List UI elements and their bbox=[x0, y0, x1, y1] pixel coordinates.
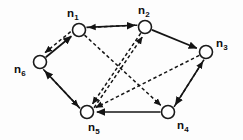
graph-node-n6 bbox=[34, 56, 47, 69]
node-label-n5: n5 bbox=[88, 122, 99, 134]
graph-edge-n6-to-n5 bbox=[43, 69, 78, 106]
node-label-n3: n3 bbox=[216, 38, 227, 50]
edge-layer bbox=[43, 25, 204, 112]
graph-node-n4 bbox=[162, 106, 175, 119]
node-layer bbox=[34, 21, 213, 119]
node-label-subscript-n4: 4 bbox=[184, 125, 188, 134]
graph-node-n3 bbox=[200, 46, 213, 59]
node-label-base-n6: n bbox=[14, 63, 21, 75]
node-label-subscript-n6: 6 bbox=[21, 69, 25, 78]
directed-graph-diagram: n1n2n3n4n5n6 bbox=[0, 0, 243, 140]
node-label-n6: n6 bbox=[14, 64, 25, 76]
graph-canvas bbox=[0, 0, 243, 140]
node-label-subscript-n2: 2 bbox=[145, 10, 149, 19]
node-label-base-n5: n bbox=[88, 121, 95, 133]
graph-edge-n5-to-n6 bbox=[45, 71, 80, 108]
node-label-n2: n2 bbox=[138, 5, 149, 17]
node-label-base-n2: n bbox=[138, 4, 145, 16]
node-label-n1: n1 bbox=[67, 8, 78, 20]
node-label-subscript-n1: 1 bbox=[74, 13, 78, 22]
graph-node-n2 bbox=[139, 21, 152, 34]
graph-node-n5 bbox=[81, 106, 94, 119]
node-label-subscript-n5: 5 bbox=[95, 127, 99, 136]
graph-edge-n1-to-n6 bbox=[45, 32, 71, 53]
node-label-n4: n4 bbox=[177, 120, 188, 132]
graph-edge-n2-to-n3 bbox=[152, 30, 197, 48]
node-label-subscript-n3: 3 bbox=[223, 43, 227, 52]
node-label-base-n1: n bbox=[67, 7, 74, 19]
node-label-base-n4: n bbox=[177, 119, 184, 131]
graph-node-n1 bbox=[73, 24, 86, 37]
graph-edge-n6-to-n1 bbox=[46, 36, 72, 57]
graph-edge-n2-to-n5 bbox=[93, 33, 141, 104]
graph-edge-n3-to-n4 bbox=[175, 60, 204, 105]
node-label-base-n3: n bbox=[216, 37, 223, 49]
